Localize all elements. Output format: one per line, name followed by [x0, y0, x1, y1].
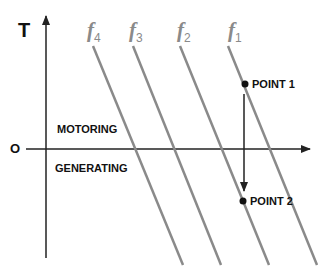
y-axis-label: T [18, 19, 30, 42]
point-2-marker [240, 198, 247, 205]
curve-f3 [133, 46, 221, 265]
diagram-graphics [0, 0, 328, 270]
curve-label-f2: f2 [177, 18, 191, 45]
point-1-marker [242, 81, 249, 88]
point-1-label: POINT 1 [252, 78, 295, 90]
generating-label: GENERATING [55, 162, 128, 174]
torque-frequency-diagram: T O MOTORING GENERATING f4 f3 f2 f1 POIN… [0, 0, 328, 270]
curve-label-f1: f1 [228, 18, 242, 45]
point-2-label: POINT 2 [250, 195, 293, 207]
motoring-label: MOTORING [57, 123, 117, 135]
curve-label-f4: f4 [87, 18, 101, 45]
curve-f4 [93, 46, 183, 265]
origin-label: O [10, 141, 20, 156]
curve-label-f3: f3 [129, 18, 143, 45]
